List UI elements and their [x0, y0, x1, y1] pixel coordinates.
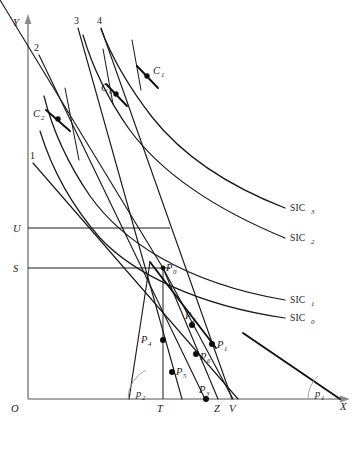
y-tick-label-s: S	[13, 263, 19, 274]
label-p4-subscript: 4	[148, 340, 152, 347]
label-p2-base: P	[184, 310, 192, 321]
axis-label-x: X	[339, 401, 347, 412]
y-axis-arrowhead	[25, 14, 32, 24]
label-c1-base: C	[153, 65, 161, 76]
label-p3: P 3	[198, 384, 210, 397]
guide-lines-group	[28, 228, 170, 399]
label-p5: P 5	[175, 366, 187, 379]
label-sic3-base: SIC	[290, 203, 305, 213]
budget-line-2	[39, 55, 205, 399]
label-sic1-subscript: 1	[311, 300, 314, 307]
point-marker-p4	[160, 337, 166, 343]
label-sic2-base: SIC	[290, 233, 305, 243]
label-sic1-base: SIC	[290, 295, 305, 305]
label-angle-p2-subscript: 2	[142, 394, 146, 401]
label-c2-subscript: 2	[41, 114, 45, 121]
fan-line-b	[163, 268, 218, 399]
label-p6-subscript: 6	[207, 357, 211, 364]
label-p0-base: P	[165, 262, 173, 273]
point-marker-c0	[113, 91, 118, 96]
label-sic0-subscript: 0	[311, 318, 315, 325]
budget-line-label-2: 2	[34, 42, 39, 53]
curve-sic3	[101, 29, 285, 208]
x-tick-label-v: V	[229, 403, 237, 414]
y-tick-label-u: U	[13, 223, 22, 234]
figure-root: Y X O U S T Z V 2 1 3 4 C 0 C 1	[0, 0, 356, 451]
budget-segment-short-left	[65, 88, 79, 160]
label-angle-p1-base: p	[314, 388, 320, 399]
label-p5-subscript: 5	[183, 372, 187, 379]
axis-label-origin: O	[11, 403, 19, 414]
label-c1: C 1	[153, 65, 164, 78]
budget-line-label-4: 4	[97, 15, 102, 26]
label-sic0: SIC 0	[290, 313, 315, 325]
point-markers-group	[55, 73, 215, 402]
budget-line-label-3: 3	[74, 15, 79, 26]
label-sic3-subscript: 3	[310, 208, 315, 215]
label-p1-subscript: 1	[224, 345, 227, 352]
text-labels-group: Y X O U S T Z V 2 1 3 4 C 0 C 1	[11, 15, 347, 414]
label-c2-base: C	[33, 108, 41, 119]
label-sic2: SIC 2	[290, 233, 315, 245]
point-marker-c2	[55, 116, 60, 121]
label-p1-base: P	[216, 339, 224, 350]
label-sic2-subscript: 2	[311, 238, 315, 245]
point-marker-p6	[193, 351, 199, 357]
label-sic1: SIC 1	[290, 295, 314, 307]
label-c0-base: C	[101, 82, 109, 93]
label-c0-subscript: 0	[109, 88, 113, 95]
budget-line-label-1: 1	[30, 150, 35, 161]
budget-line-right-p1	[243, 333, 340, 399]
label-sic0-base: SIC	[290, 313, 305, 323]
label-p0-subscript: 0	[173, 268, 177, 275]
point-marker-p5	[169, 369, 175, 375]
label-angle-p2-base: p	[135, 388, 141, 399]
label-p4: P 4	[140, 334, 152, 347]
label-c1-subscript: 1	[161, 71, 164, 78]
label-p4-base: P	[140, 334, 148, 345]
label-p1: P 1	[216, 339, 227, 352]
point-marker-p1	[209, 341, 215, 347]
point-marker-p0	[161, 266, 166, 271]
label-p6: P 6	[199, 351, 211, 364]
label-p2-subscript: 2	[192, 316, 196, 323]
curve-sic2	[83, 35, 285, 238]
fan-line-left	[129, 262, 150, 399]
axis-label-y: Y	[13, 17, 20, 28]
label-p0: P 0	[165, 262, 177, 275]
point-marker-c1	[144, 73, 149, 78]
label-p3-subscript: 3	[205, 390, 210, 397]
label-p6-base: P	[199, 351, 207, 362]
economics-diagram: Y X O U S T Z V 2 1 3 4 C 0 C 1	[0, 0, 356, 451]
budget-segment-short-c1	[132, 40, 141, 90]
label-sic3: SIC 3	[290, 203, 315, 215]
label-c2: C 2	[33, 108, 45, 121]
x-tick-label-t: T	[157, 403, 164, 414]
budget-lines-group	[0, 0, 340, 399]
label-p3-base: P	[198, 384, 206, 395]
label-p5-base: P	[175, 366, 183, 377]
x-tick-label-z: Z	[214, 403, 220, 414]
label-angle-p1-subscript: 1	[321, 394, 324, 401]
